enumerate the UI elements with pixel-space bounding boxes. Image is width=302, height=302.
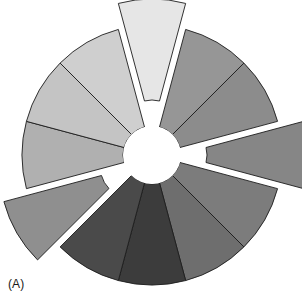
panel-label: (A): [8, 278, 24, 291]
exploded-donut-chart: [0, 0, 302, 302]
donut-center-hole: [123, 126, 181, 184]
figure-panel: (A): [0, 0, 302, 302]
